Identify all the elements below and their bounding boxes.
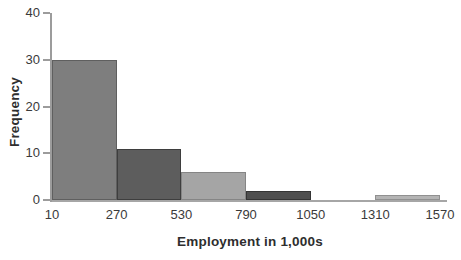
histogram-bar-2 [117, 149, 182, 200]
x-tick-label: 790 [235, 208, 257, 222]
y-tick-label: 30 [10, 53, 40, 67]
y-axis-tick [43, 152, 50, 154]
x-tick-label: 1050 [296, 208, 325, 222]
y-tick-label: 20 [10, 100, 40, 114]
x-tick-label: 1310 [361, 208, 390, 222]
x-axis-title: Employment in 1,000s [177, 234, 323, 249]
y-axis-tick [43, 199, 50, 201]
x-tick-label: 10 [45, 208, 59, 222]
histogram-bar-3 [181, 172, 246, 200]
histogram-figure: Frequency 010203040102705307901050131015… [0, 0, 461, 260]
histogram-bar-1 [52, 60, 117, 200]
histogram-bar-4 [246, 191, 311, 200]
x-tick-label: 270 [106, 208, 128, 222]
x-tick-label: 530 [170, 208, 192, 222]
histogram-bar-6 [375, 195, 440, 200]
y-tick-label: 40 [10, 6, 40, 20]
y-axis-tick [43, 12, 50, 14]
x-tick-label: 1570 [426, 208, 455, 222]
y-tick-label: 10 [10, 146, 40, 160]
plot-area: 01020304010270530790105013101570 [0, 0, 461, 260]
y-tick-label: 0 [10, 193, 40, 207]
x-axis-line [52, 200, 447, 202]
y-axis-tick [43, 59, 50, 61]
y-axis-tick [43, 106, 50, 108]
